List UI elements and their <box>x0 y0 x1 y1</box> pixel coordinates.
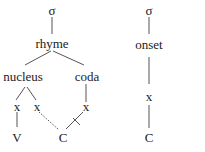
node-r-x: x <box>146 90 153 103</box>
node-x3: x <box>83 100 90 113</box>
edge-x2-c-dotted <box>39 112 59 130</box>
node-rhyme: rhyme <box>35 37 68 50</box>
node-c: C <box>59 131 68 144</box>
node-r-syllable: σ <box>145 4 152 17</box>
node-v: V <box>12 131 21 144</box>
edge-rhyme-nucleus <box>25 51 51 65</box>
node-r-onset: onset <box>135 38 162 51</box>
edge-x3-c-delinked <box>66 112 83 129</box>
edge-rhyme-coda <box>53 51 84 65</box>
node-r-c: C <box>145 131 154 144</box>
node-x1: x <box>14 100 21 113</box>
node-x2: x <box>34 100 41 113</box>
node-nucleus: nucleus <box>3 70 43 83</box>
node-syllable: σ <box>48 4 55 17</box>
node-coda: coda <box>75 70 100 83</box>
